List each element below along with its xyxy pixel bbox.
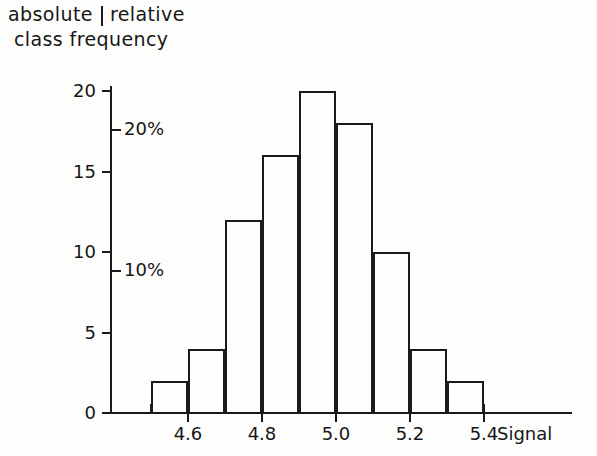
bin-edge-tick xyxy=(483,404,485,413)
bin-edge-tick xyxy=(409,404,411,413)
bin-edge-tick xyxy=(335,404,337,413)
x-tick-label: 5.2 xyxy=(387,424,433,444)
plot-area: 20151050 20%10% 4.64.85.05.25.4 Signal xyxy=(0,0,597,456)
y-tick-mark xyxy=(102,251,111,253)
x-tick-label: 4.6 xyxy=(165,424,211,444)
y-tick-label: 10 xyxy=(52,243,96,261)
histogram-bar xyxy=(447,381,484,413)
secondary-y-tick-mark xyxy=(112,129,121,131)
histogram-bar xyxy=(225,220,262,413)
y-tick-label: 20 xyxy=(52,82,96,100)
y-tick-label: 15 xyxy=(52,163,96,181)
secondary-y-tick-label: 20% xyxy=(124,120,164,138)
x-axis-label: Signal xyxy=(497,424,552,444)
bin-edge-tick xyxy=(298,404,300,413)
y-tick-label: 0 xyxy=(52,404,96,422)
histogram-bar xyxy=(410,349,447,413)
x-tick-label: 4.8 xyxy=(239,424,285,444)
histogram-bar xyxy=(262,155,299,413)
histogram-bar xyxy=(299,91,336,413)
secondary-y-tick-label: 10% xyxy=(124,261,164,279)
bin-edge-tick xyxy=(150,404,152,413)
bin-edge-tick xyxy=(372,404,374,413)
bin-edge-tick xyxy=(187,404,189,413)
histogram-bar xyxy=(373,252,410,413)
bin-edge-tick xyxy=(261,404,263,413)
y-tick-label: 5 xyxy=(52,324,96,342)
y-tick-mark xyxy=(102,412,111,414)
x-tick-mark xyxy=(335,414,337,422)
bin-edge-tick xyxy=(224,404,226,413)
histogram-bar xyxy=(151,381,188,413)
y-tick-mark xyxy=(102,171,111,173)
x-tick-mark xyxy=(261,414,263,422)
y-tick-mark xyxy=(102,90,111,92)
bin-edge-tick xyxy=(446,404,448,413)
x-tick-label: 5.0 xyxy=(313,424,359,444)
x-tick-mark xyxy=(187,414,189,422)
y-tick-mark xyxy=(102,332,111,334)
x-tick-mark xyxy=(409,414,411,422)
secondary-y-tick-mark xyxy=(112,270,121,272)
y-axis-line xyxy=(110,86,112,414)
histogram-figure: absolute relative class frequency 201510… xyxy=(0,0,597,456)
x-tick-mark xyxy=(483,414,485,422)
histogram-bar xyxy=(336,123,373,413)
histogram-bar xyxy=(188,349,225,413)
